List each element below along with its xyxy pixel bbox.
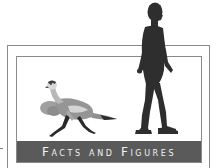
facts-and-figures-banner: Facts and Figures (17, 141, 201, 162)
facts-and-figures-panel: Facts and Figures (0, 0, 221, 168)
banner-title: Facts and Figures (42, 145, 176, 158)
